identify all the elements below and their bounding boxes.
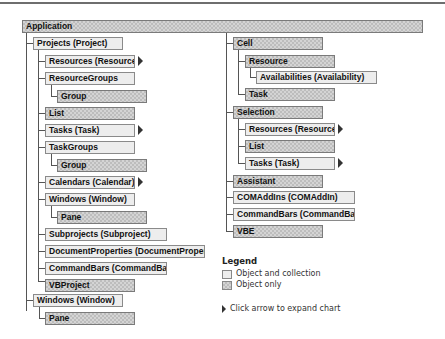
connector [226,112,233,113]
node-subprojects[interactable]: Subprojects (Subproject) [45,228,167,241]
node-assistant[interactable]: Assistant [233,175,323,188]
connector [51,84,52,96]
connector [51,153,52,165]
legend-label-object-only: Object only [236,280,282,289]
connector [38,199,45,200]
connector [238,49,239,94]
node-commandbars-left[interactable]: CommandBars (CommandBar) [45,262,167,275]
connector [226,214,233,215]
connector [51,205,52,217]
expand-arrow-icon[interactable] [138,56,143,66]
node-app-windows-pane[interactable]: Pane [45,312,135,325]
node-selection-resources[interactable]: Resources (Resource) [245,123,335,136]
connector [38,113,45,114]
top-rule [0,2,445,4]
node-vbe[interactable]: VBE [233,225,323,238]
connector [238,129,245,130]
legend-label-object-and-collection: Object and collection [236,269,321,278]
connector [238,146,245,147]
connector [226,231,233,232]
node-resourcegroups-group[interactable]: Group [57,90,147,103]
node-list[interactable]: List [45,107,135,120]
node-app-windows[interactable]: Windows (Window) [33,294,123,307]
legend-swatch-object-only [222,281,232,290]
node-calendars[interactable]: Calendars (Calendar) [45,176,135,189]
connector [38,182,45,183]
node-project-windows[interactable]: Windows (Window) [45,193,135,206]
connector [238,163,245,164]
node-cell[interactable]: Cell [233,37,323,50]
connector [38,61,45,62]
connector [39,306,40,318]
node-vbproject[interactable]: VBProject [45,279,135,292]
legend-arrow-note: Click arrow to expand chart [230,304,340,313]
connector [38,281,45,282]
expand-arrow-icon[interactable] [138,125,143,135]
node-selection[interactable]: Selection [233,106,323,119]
expand-arrow-icon[interactable] [338,124,343,134]
connector [26,33,27,311]
connector [238,118,239,164]
node-cell-task[interactable]: Task [245,88,335,101]
connector [38,147,45,148]
node-application[interactable]: Application [22,20,423,33]
connector [250,67,251,77]
connector [38,130,45,131]
legend-arrow-icon [222,305,226,313]
node-project-windows-pane[interactable]: Pane [57,211,147,224]
connector [38,78,45,79]
node-projects[interactable]: Projects (Project) [33,37,123,50]
connector [38,234,45,235]
node-taskgroups-group[interactable]: Group [57,159,147,172]
legend-title: Legend [222,256,257,266]
connector [38,268,45,269]
legend-swatch-object-and-collection [222,270,232,279]
node-cell-resource[interactable]: Resource [245,55,335,68]
expand-arrow-icon[interactable] [338,158,343,168]
node-resourcegroups[interactable]: ResourceGroups [45,72,135,85]
node-documentproperties[interactable]: DocumentProperties (DocumentProperty) [45,245,205,258]
node-comaddins[interactable]: COMAddIns (COMAddIn) [233,191,355,204]
node-commandbars-right[interactable]: CommandBars (CommandBar) [233,208,355,221]
node-availabilities[interactable]: Availabilities (Availability) [256,71,377,84]
connector [238,61,245,62]
node-tasks[interactable]: Tasks (Task) [45,124,135,137]
connector [226,43,233,44]
connector [226,181,233,182]
node-resources[interactable]: Resources (Resource) [45,55,135,68]
node-selection-tasks[interactable]: Tasks (Task) [245,157,335,170]
connector [38,251,45,252]
connector [226,33,227,231]
connector [238,94,245,95]
connector [38,49,39,281]
node-taskgroups[interactable]: TaskGroups [45,141,135,154]
node-selection-list[interactable]: List [245,140,335,153]
expand-arrow-icon[interactable] [138,177,143,187]
connector [226,197,233,198]
